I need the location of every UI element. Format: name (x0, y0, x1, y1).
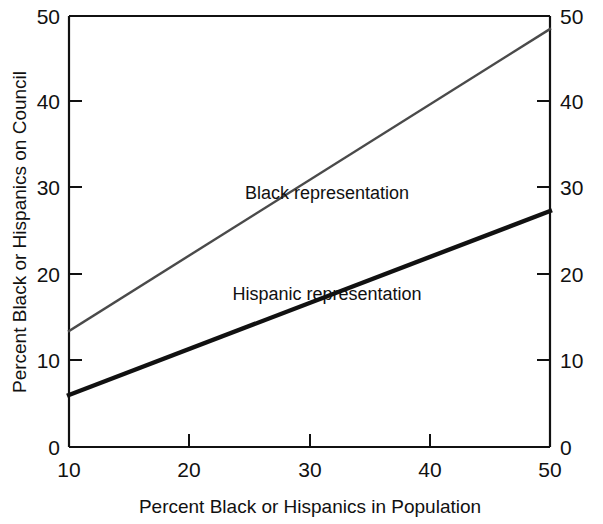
y-tick-label-right-30: 30 (560, 176, 583, 199)
y-axis-title: Percent Black or Hispanics on Council (9, 71, 30, 393)
chart-background (0, 0, 603, 524)
x-tick-label-20: 20 (177, 458, 200, 481)
y-tick-label-left-10: 10 (37, 349, 60, 372)
y-tick-label-left-40: 40 (37, 90, 60, 113)
y-tick-label-right-10: 10 (560, 349, 583, 372)
x-axis-title: Percent Black or Hispanics in Population (139, 496, 481, 517)
y-tick-label-left-30: 30 (37, 176, 60, 199)
y-tick-label-left-0: 0 (48, 436, 60, 459)
x-tick-label-40: 40 (418, 458, 441, 481)
y-tick-label-right-50: 50 (560, 5, 583, 28)
y-tick-label-right-0: 0 (560, 436, 572, 459)
annotation-hispanic-representation: Hispanic representation (232, 284, 421, 304)
y-tick-label-left-20: 20 (37, 263, 60, 286)
annotation-black-representation: Black representation (245, 183, 409, 203)
y-tick-label-left-50: 50 (37, 5, 60, 28)
chart-figure: 0 10 20 30 40 50 0 10 20 30 40 50 10 20 … (0, 0, 603, 524)
y-tick-label-right-40: 40 (560, 90, 583, 113)
x-tick-label-50: 50 (538, 458, 561, 481)
y-tick-label-right-20: 20 (560, 263, 583, 286)
x-tick-label-30: 30 (298, 458, 321, 481)
line-chart-svg: 0 10 20 30 40 50 0 10 20 30 40 50 10 20 … (0, 0, 603, 524)
x-tick-label-10: 10 (57, 458, 80, 481)
